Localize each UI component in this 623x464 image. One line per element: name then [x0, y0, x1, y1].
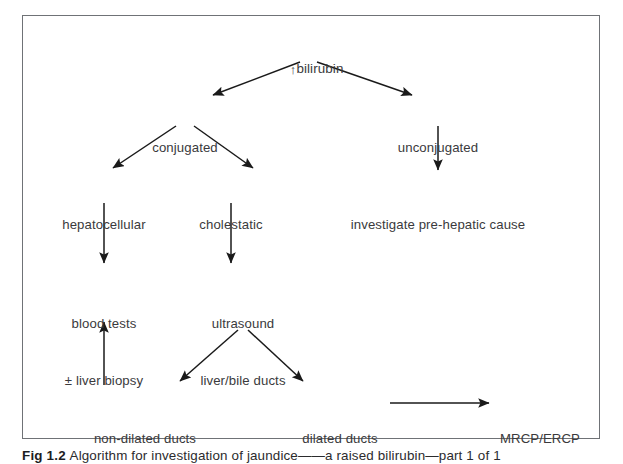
up-arrow-icon: ↑ — [290, 62, 297, 75]
node-conjugated: conjugated — [152, 104, 218, 192]
node-hepatocellular: hepatocellular — [62, 181, 146, 269]
node-unconjugated-label: unconjugated — [398, 139, 478, 157]
node-investigate-pre-hepatic-cause-label: investigate pre-hepatic cause — [351, 216, 525, 234]
node-conjugated-label: conjugated — [152, 139, 218, 157]
node-dilated-ducts-label: dilated ducts — [302, 430, 377, 448]
node-mrcp-ercp-label: MRCP/ERCP — [500, 430, 580, 448]
node-non-dilated-ducts-label: non-dilated ducts — [94, 430, 196, 448]
node-ultrasound: ultrasound liver/bile ducts — [200, 276, 285, 428]
figure-caption-label: Fig 1.2 — [22, 448, 66, 463]
figure-container: ↑bilirubin conjugated unconjugated hepat… — [0, 0, 623, 464]
figure-caption: Fig 1.2 Algorithm for investigation of j… — [22, 448, 612, 464]
node-unconjugated: unconjugated — [398, 104, 478, 192]
figure-caption-text: Algorithm for investigation of jaundice—… — [70, 448, 501, 463]
node-ultrasound-line1: ultrasound — [200, 314, 285, 333]
node-hepatocellular-label: hepatocellular — [62, 216, 146, 234]
node-investigate-pre-hepatic-cause: investigate pre-hepatic cause — [351, 181, 525, 269]
node-ultrasound-line2: liver/bile ducts — [200, 371, 285, 390]
node-bilirubin-label: bilirubin — [296, 61, 343, 76]
node-cholestatic-label: cholestatic — [199, 216, 262, 234]
node-bilirubin: ↑bilirubin — [275, 42, 344, 95]
node-cholestatic: cholestatic — [199, 181, 262, 269]
node-blood-tests-line2: ± liver biopsy — [65, 371, 143, 390]
node-blood-tests-line1: blood tests — [65, 314, 143, 333]
